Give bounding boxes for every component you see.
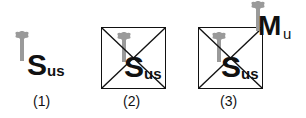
symbol-s: S	[124, 52, 144, 82]
subscript-us: us	[47, 63, 65, 78]
subscript-us: us	[241, 66, 259, 81]
key-icon	[211, 32, 227, 63]
key-icon	[116, 32, 132, 63]
subscript-u: u	[283, 26, 291, 41]
crossed-box: S us	[101, 27, 166, 89]
cross-out-icon	[199, 28, 262, 88]
subscript-us: us	[144, 66, 162, 81]
symbol-s: S	[27, 50, 47, 80]
crossed-box: S us	[198, 27, 263, 89]
figure-label: (3)	[220, 93, 237, 109]
key-icon	[250, 1, 266, 32]
figure-label: (1)	[33, 93, 50, 109]
cross-out-icon	[102, 28, 165, 88]
symbol-m: M	[258, 12, 281, 40]
figure-label: (2)	[123, 93, 140, 109]
figure-1: S us (1)	[0, 0, 100, 118]
symbol-s: S	[221, 52, 241, 82]
